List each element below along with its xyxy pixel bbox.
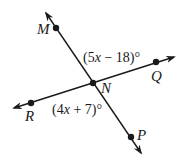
angle-mnq-label: (5x − 18)° [83, 50, 140, 66]
diagram-canvas: M N P Q R (5x − 18)° (4x + 7)° [0, 0, 182, 163]
label-p: P [136, 127, 146, 143]
label-r: R [24, 108, 34, 124]
label-q: Q [151, 68, 162, 84]
label-n: N [100, 80, 112, 96]
point-p [128, 134, 134, 140]
point-n [90, 80, 96, 86]
point-r [28, 100, 34, 106]
point-m [53, 25, 59, 31]
label-m: M [36, 21, 51, 37]
angle-rnp-label: (4x + 7)° [52, 102, 102, 118]
point-q [153, 59, 159, 65]
